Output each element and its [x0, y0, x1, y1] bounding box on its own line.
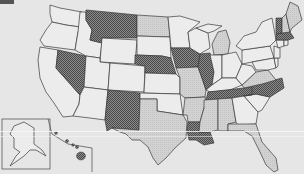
state-alaska[interactable]: [10, 122, 46, 166]
state-south-dakota[interactable]: [137, 36, 171, 58]
state-wyoming[interactable]: [100, 38, 137, 64]
state-kansas[interactable]: [144, 73, 180, 94]
state-colorado[interactable]: [108, 63, 145, 92]
inset-divider: [48, 119, 92, 172]
state-montana[interactable]: [86, 10, 137, 43]
us-choropleth-map: [0, 0, 304, 174]
state-new-york[interactable]: [236, 18, 276, 50]
state-rhode-island[interactable]: [284, 40, 288, 46]
scan-artifact: [0, 131, 304, 132]
state-oregon[interactable]: [40, 22, 80, 50]
state-michigan[interactable]: [212, 30, 230, 55]
state-north-dakota[interactable]: [137, 15, 170, 37]
scan-artifact: [0, 136, 304, 137]
state-vermont[interactable]: [276, 18, 282, 34]
state-new-mexico[interactable]: [105, 90, 140, 131]
